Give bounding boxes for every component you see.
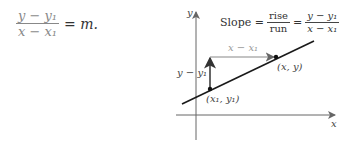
run-label: x − x₁: [228, 42, 258, 53]
rise-run-fraction: rise run: [267, 10, 290, 35]
difference-fraction: y − y₁ x − x₁: [305, 10, 339, 35]
rise-label: y − y₁: [177, 67, 207, 78]
rise-text: rise: [267, 10, 290, 23]
run-text: run: [268, 23, 290, 35]
point-2: [274, 55, 278, 59]
difference-numerator: y − y₁: [305, 10, 339, 23]
slope-equals: =: [293, 16, 302, 29]
point2-label: (x, y): [277, 61, 302, 72]
difference-denominator: x − x₁: [305, 23, 339, 35]
slope-formula: Slope = rise run = y − y₁ x − x₁: [220, 10, 339, 35]
y-axis-label: y: [187, 7, 193, 18]
point-1: [208, 87, 212, 91]
x-axis-label: x: [331, 118, 337, 129]
point1-label: (x₁, y₁): [206, 93, 239, 104]
slope-prefix: Slope =: [220, 16, 264, 29]
